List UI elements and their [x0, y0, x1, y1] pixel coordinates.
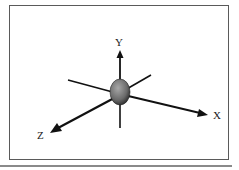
axes-diagram: Y X Z [0, 0, 239, 170]
ellipsoid-icon [110, 79, 130, 105]
y-axis-label: Y [115, 36, 123, 48]
z-axis-label: Z [37, 129, 44, 141]
x-axis-label: X [213, 109, 221, 121]
x-arrowhead-icon [197, 109, 208, 117]
x-axis [124, 95, 208, 117]
z-axis [50, 97, 116, 133]
horizontal-rule [0, 165, 232, 167]
y-arrowhead-icon [117, 50, 124, 58]
